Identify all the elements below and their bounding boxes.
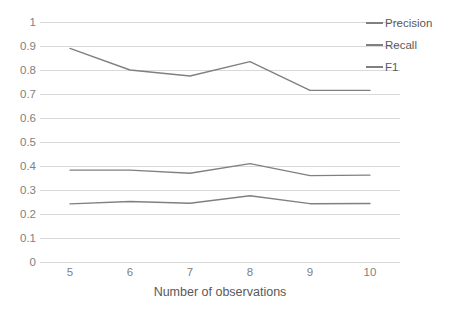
y-axis-tick-label: 0.7 — [0, 88, 36, 100]
legend-item-label: Recall — [385, 39, 417, 52]
y-axis-tick-label: 0.4 — [0, 160, 36, 172]
y-axis-tick-label: 0.5 — [0, 136, 36, 148]
legend-item-label: Precision — [385, 17, 432, 30]
y-axis-tick-label: 0.2 — [0, 208, 36, 220]
y-axis-tick-label: 0 — [0, 256, 36, 268]
series-canvas — [40, 22, 400, 262]
y-axis-tick-label: 0.9 — [0, 40, 36, 52]
legend-line-icon — [366, 66, 383, 68]
gridline — [40, 262, 400, 263]
y-axis-tick-label: 0.3 — [0, 184, 36, 196]
x-axis-tick-label: 5 — [48, 266, 92, 279]
x-axis-tick-label: 8 — [228, 266, 272, 279]
y-axis-tick-label: 0.6 — [0, 112, 36, 124]
legend-item-label: F1 — [385, 61, 398, 74]
series-line-precision — [70, 48, 370, 90]
series-line-f1 — [70, 196, 370, 204]
legend-item-recall[interactable]: Recall — [366, 34, 454, 56]
x-axis-tick-label: 7 — [168, 266, 212, 279]
plot-area — [40, 22, 400, 262]
legend-item-f1[interactable]: F1 — [366, 56, 454, 78]
x-axis-tick-label: 9 — [288, 266, 332, 279]
x-axis-tick-label: 10 — [348, 266, 392, 279]
legend-item-precision[interactable]: Precision — [366, 12, 454, 34]
line-chart: 10.90.80.70.60.50.40.30.20.10 5678910 Nu… — [0, 0, 454, 309]
x-axis-tick-label: 6 — [108, 266, 152, 279]
y-axis-tick-label: 0.1 — [0, 232, 36, 244]
x-axis-title: Number of observations — [40, 285, 400, 300]
legend-line-icon — [366, 22, 383, 24]
y-axis-tick-label: 0.8 — [0, 64, 36, 76]
y-axis-tick-label: 1 — [0, 16, 36, 28]
legend-line-icon — [366, 44, 383, 46]
series-line-recall — [70, 164, 370, 176]
chart-legend: PrecisionRecallF1 — [366, 12, 454, 78]
